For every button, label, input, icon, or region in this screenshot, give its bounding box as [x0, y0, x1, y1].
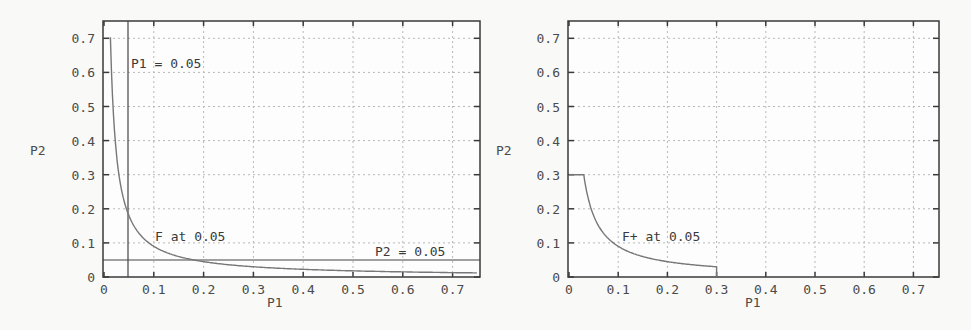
- x-axis-label: P1: [267, 295, 283, 310]
- y-tick-label: 0.6: [72, 65, 95, 80]
- x-tick-label: 0.1: [606, 282, 629, 297]
- y-tick-labels: 00.10.20.30.40.50.60.7: [72, 31, 96, 285]
- y-tick-label: 0.5: [72, 100, 95, 115]
- y-tick-labels: 00.10.20.30.40.50.60.7: [537, 31, 561, 285]
- x-tick-label: 0.7: [441, 282, 464, 297]
- y-tick-label: 0.2: [537, 202, 560, 217]
- y-axis-label: P2: [30, 143, 46, 158]
- annotation-f-plus: F+ at 0.05: [622, 229, 700, 244]
- y-tick-label: 0.6: [537, 65, 560, 80]
- x-tick-label: 0.1: [142, 282, 165, 297]
- x-tick-label: 0.7: [902, 282, 925, 297]
- chart-right: 00.10.20.30.40.50.60.7 00.10.20.30.40.50…: [496, 21, 939, 310]
- y-tick-label: 0.2: [72, 202, 95, 217]
- charts-canvas: 00.10.20.30.40.50.60.7 00.10.20.30.40.50…: [0, 0, 971, 330]
- y-tick-label: 0.7: [537, 31, 560, 46]
- x-tick-label: 0.3: [705, 282, 728, 297]
- y-tick-label: 0: [87, 270, 95, 285]
- annotation-p1: P1 = 0.05: [131, 56, 201, 71]
- annotation-f: F at 0.05: [155, 229, 225, 244]
- y-tick-label: 0.1: [72, 236, 95, 251]
- y-tick-label: 0.5: [537, 100, 560, 115]
- y-tick-label: 0.3: [72, 168, 95, 183]
- x-tick-label: 0: [565, 282, 573, 297]
- x-tick-label: 0.3: [242, 282, 265, 297]
- y-tick-label: 0.4: [72, 134, 96, 149]
- x-axis-label: P1: [745, 295, 761, 310]
- x-tick-label: 0.2: [656, 282, 679, 297]
- y-tick-label: 0.1: [537, 236, 560, 251]
- y-tick-label: 0: [552, 270, 560, 285]
- chart-left: 00.10.20.30.40.50.60.7 00.10.20.30.40.50…: [30, 21, 480, 310]
- x-tick-label: 0.6: [852, 282, 875, 297]
- x-tick-label: 0: [100, 282, 108, 297]
- x-tick-label: 0.2: [192, 282, 215, 297]
- y-tick-label: 0.4: [537, 134, 561, 149]
- x-tick-label: 0.4: [291, 282, 315, 297]
- y-axis-label: P2: [496, 143, 512, 158]
- y-tick-label: 0.7: [72, 31, 95, 46]
- y-tick-label: 0.3: [537, 168, 560, 183]
- x-tick-label: 0.5: [803, 282, 826, 297]
- x-tick-label: 0.6: [391, 282, 414, 297]
- x-tick-label: 0.5: [341, 282, 364, 297]
- annotation-p2: P2 = 0.05: [375, 244, 445, 259]
